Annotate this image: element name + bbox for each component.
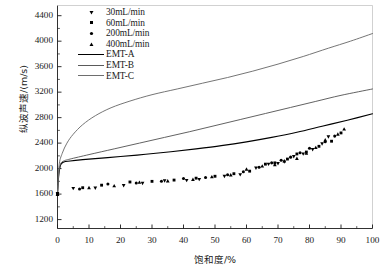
y-axis-label: 纵波声速/(m/s) <box>16 54 30 144</box>
y-tick-label: 1200 <box>24 214 53 224</box>
line-swatch <box>78 54 104 55</box>
legend-line-swatch <box>76 65 106 66</box>
legend-label: 60mL/min <box>106 18 145 29</box>
series-400mL/min <box>56 127 346 196</box>
series-200mL/min <box>56 135 336 196</box>
legend-label: 30mL/min <box>106 7 145 18</box>
x-tick-label: 0 <box>44 235 72 245</box>
legend-label: EMT-A <box>106 49 134 60</box>
x-tick-label: 50 <box>201 235 229 245</box>
x-tick-label: 90 <box>327 235 355 245</box>
legend-label: EMT-B <box>106 60 134 71</box>
legend-label: 400mL/min <box>106 39 149 50</box>
legend-triangle-up-icon <box>76 39 106 50</box>
x-tick-label: 70 <box>264 235 292 245</box>
line-swatch <box>78 65 104 66</box>
legend-item: EMT-B <box>76 60 149 71</box>
x-tick-label: 100 <box>359 235 384 245</box>
series-60mL/min <box>56 132 342 196</box>
x-tick-label: 40 <box>170 235 198 245</box>
chart-figure: 120016002000240028003200360040004400 010… <box>0 0 384 271</box>
chart-legend: 30mL/min60mL/min200mL/min400mL/minEMT-AE… <box>76 7 149 81</box>
legend-item: EMT-C <box>76 71 149 82</box>
line-swatch <box>78 75 104 76</box>
y-tick-label: 4000 <box>24 35 53 45</box>
legend-line-swatch <box>76 54 106 55</box>
legend-item: 200mL/min <box>76 28 149 39</box>
legend-item: EMT-A <box>76 49 149 60</box>
y-tick-label: 2000 <box>24 163 53 173</box>
legend-label: EMT-C <box>106 71 134 82</box>
legend-label: 200mL/min <box>106 28 149 39</box>
y-tick-label: 1600 <box>24 188 53 198</box>
y-tick-label: 4400 <box>24 10 53 20</box>
legend-circle-icon <box>76 28 106 39</box>
series-30mL/min <box>56 135 331 195</box>
chart-plot-area <box>0 0 384 271</box>
x-tick-label: 20 <box>107 235 135 245</box>
x-axis-label: 饱和度/% <box>57 252 373 266</box>
legend-square-icon <box>76 17 106 28</box>
legend-item: 400mL/min <box>76 39 149 50</box>
legend-triangle-down-icon <box>76 7 106 18</box>
x-tick-label: 30 <box>138 235 166 245</box>
data-points <box>56 127 346 196</box>
legend-line-swatch <box>76 75 106 76</box>
x-tick-label: 80 <box>296 235 324 245</box>
legend-item: 30mL/min <box>76 7 149 18</box>
x-tick-label: 60 <box>233 235 261 245</box>
x-tick-label: 10 <box>75 235 103 245</box>
legend-item: 60mL/min <box>76 18 149 29</box>
